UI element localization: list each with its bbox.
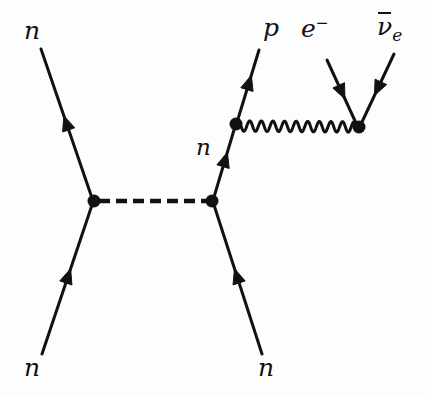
- antineutrino-flavor-subscript: e: [392, 25, 402, 45]
- electron-charge-superscript: −: [316, 14, 329, 32]
- label-outgoing-electron: e−: [301, 16, 329, 41]
- vertex-w-decay-vertex: [353, 121, 366, 134]
- electron-symbol: e: [301, 14, 316, 43]
- arrowhead-neutron-internal: [217, 152, 229, 168]
- antineutrino-symbol: ν: [377, 14, 392, 39]
- vertex-w-emission-vertex: [230, 118, 243, 131]
- label-incoming-neutron-bottom-left: n: [24, 355, 40, 380]
- vertex-pion-absorption-vertex: [206, 195, 219, 208]
- feynman-diagram-canvas: n n n p e− νe n: [0, 0, 426, 396]
- feynman-diagram-svg: [0, 0, 426, 396]
- label-outgoing-proton: p: [263, 15, 279, 40]
- arrowhead-neutron-in-upper-left: [63, 116, 75, 132]
- vertex-pion-emission-vertex: [88, 195, 101, 208]
- label-outgoing-antineutrino: νe: [377, 14, 402, 44]
- arrowhead-neutron-in-lower-right: [233, 269, 245, 285]
- w-boson-propagator-wavy-line: [241, 121, 354, 132]
- arrowhead-antineutrino-out: [374, 79, 386, 95]
- arrowhead-proton-out: [241, 75, 253, 91]
- label-incoming-neutron-bottom-right: n: [258, 355, 274, 380]
- arrowhead-group: [60, 75, 387, 285]
- label-internal-neutron: n: [196, 136, 211, 159]
- label-incoming-neutron-top: n: [24, 18, 40, 43]
- arrowhead-electron-out: [333, 83, 345, 99]
- arrowhead-neutron-in-lower-left: [60, 269, 72, 285]
